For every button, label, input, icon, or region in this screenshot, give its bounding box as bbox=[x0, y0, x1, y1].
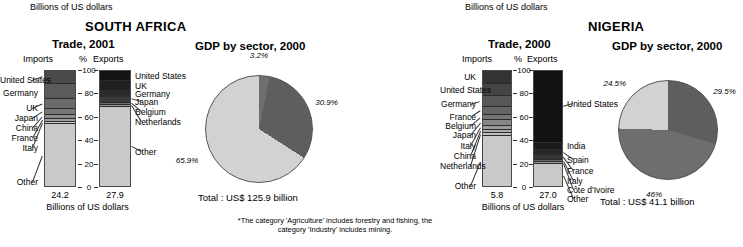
pie-slice-percent: 30.9% bbox=[315, 98, 338, 107]
sa-imports-header: Imports bbox=[23, 54, 53, 64]
axis-tick-mark bbox=[513, 187, 517, 188]
sa-gdp-pie bbox=[205, 75, 313, 183]
axis-tick-mark bbox=[529, 70, 533, 71]
ng-top-unit-note: Billions of US dollars bbox=[465, 2, 548, 12]
pie-slice-percent: 24.5% bbox=[603, 79, 626, 88]
axis-tick-mark bbox=[94, 140, 98, 141]
ng-pct-header: % bbox=[514, 54, 522, 64]
ng-exports-header: Exports bbox=[527, 54, 558, 64]
axis-tick-mark bbox=[94, 187, 98, 188]
nigeria-panel: Billions of US dollars NIGERIA Trade, 20… bbox=[440, 0, 743, 247]
ng-gdp-title: GDP by sector, 2000 bbox=[612, 40, 722, 52]
sa-imports-stacked-bar bbox=[44, 70, 76, 187]
bar-segment bbox=[100, 107, 130, 186]
sa-country-title: SOUTH AFRICA bbox=[85, 19, 186, 34]
bar-segment bbox=[534, 71, 562, 143]
bar-segment bbox=[45, 124, 75, 186]
trade-partner-label: Germany bbox=[0, 89, 38, 98]
south-africa-panel: Billions of US dollars SOUTH AFRICA Trad… bbox=[0, 0, 440, 247]
bar-segment bbox=[483, 107, 511, 115]
ng-exports-stacked-bar bbox=[533, 70, 563, 187]
bar-segment bbox=[483, 136, 511, 186]
sa-exports-header: Exports bbox=[93, 54, 124, 64]
ng-percent-axis: 100806040200 bbox=[513, 70, 532, 187]
ng-gdp-total: Total : US$ 41.1 billion bbox=[600, 196, 695, 207]
pie-slice-percent: 29.5% bbox=[713, 87, 736, 96]
bar-segment bbox=[534, 164, 562, 186]
sa-gdp-total: Total : US$ 125.9 billion bbox=[198, 192, 298, 203]
axis-tick-mark bbox=[529, 117, 533, 118]
trade-partner-label: India bbox=[567, 142, 585, 151]
trade-partner-label: United States bbox=[567, 100, 618, 109]
axis-tick-mark bbox=[78, 187, 82, 188]
sa-percent-axis: 100806040200 bbox=[78, 70, 98, 187]
pie-slice-percent: 3.2% bbox=[250, 51, 268, 60]
axis-tick-mark bbox=[529, 140, 533, 141]
ng-imports-total: 5.8 bbox=[482, 190, 512, 200]
sa-exports-total: 27.9 bbox=[99, 190, 131, 200]
axis-tick-mark bbox=[94, 93, 98, 94]
sa-exports-stacked-bar bbox=[99, 70, 131, 187]
axis-tick-mark bbox=[78, 164, 82, 165]
axis-tick-mark bbox=[529, 164, 533, 165]
axis-tick-mark bbox=[78, 70, 82, 71]
axis-tick-mark bbox=[529, 93, 533, 94]
ng-imports-header: Imports bbox=[462, 54, 492, 64]
bar-segment bbox=[100, 71, 130, 81]
pie-slice-percent: 65.9% bbox=[176, 156, 199, 165]
axis-tick-mark bbox=[94, 70, 98, 71]
axis-tick-mark bbox=[78, 117, 82, 118]
sa-trade-title: Trade, 2001 bbox=[52, 38, 115, 50]
bar-segment bbox=[45, 99, 75, 109]
ng-country-title: NIGERIA bbox=[588, 19, 644, 34]
ng-exports-total: 27.0 bbox=[533, 190, 563, 200]
trade-partner-label: United States bbox=[135, 72, 186, 81]
bar-segment bbox=[45, 84, 75, 100]
ng-trade-title: Trade, 2000 bbox=[488, 38, 551, 50]
figure-footnote: *The category 'Agriculture' includes for… bbox=[230, 216, 440, 234]
sa-unit-caption: Billions of US dollars bbox=[10, 202, 165, 212]
trade-partner-label: Japan bbox=[135, 98, 158, 107]
axis-tick-mark bbox=[513, 164, 517, 165]
sa-top-unit-note: Billions of US dollars bbox=[30, 2, 113, 12]
axis-tick-mark bbox=[78, 140, 82, 141]
axis-tick-mark bbox=[94, 117, 98, 118]
ng-unit-caption: Billions of US dollars bbox=[448, 202, 598, 212]
sa-imports-total: 24.2 bbox=[44, 190, 76, 200]
axis-tick-mark bbox=[78, 93, 82, 94]
axis-tick-mark bbox=[513, 140, 517, 141]
axis-tick-mark bbox=[529, 187, 533, 188]
bar-segment bbox=[483, 71, 511, 84]
axis-tick-mark bbox=[513, 70, 517, 71]
axis-tick-mark bbox=[513, 93, 517, 94]
bar-segment bbox=[100, 81, 130, 90]
axis-tick-mark bbox=[513, 117, 517, 118]
ng-gdp-pie bbox=[618, 80, 718, 180]
sa-pct-header: % bbox=[79, 54, 87, 64]
trade-partner-label: United States bbox=[440, 86, 476, 95]
axis-tick-mark bbox=[94, 164, 98, 165]
trade-partner-label: UK bbox=[440, 73, 476, 82]
trade-partner-label: Netherlands bbox=[135, 118, 181, 127]
bar-segment bbox=[483, 96, 511, 106]
